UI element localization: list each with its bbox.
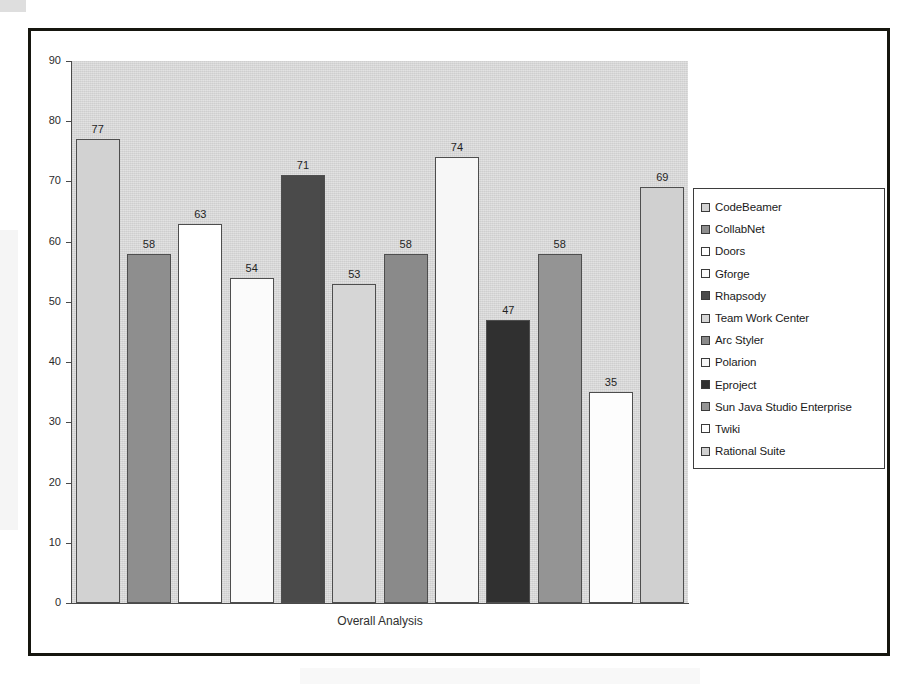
legend-item-label: Doors (715, 245, 745, 257)
legend-item[interactable]: Eproject (701, 374, 878, 396)
legend-item[interactable]: Rational Suite (701, 440, 878, 462)
legend-item-label: Rhapsody (715, 290, 766, 302)
legend-swatch-icon (701, 424, 710, 433)
legend-item[interactable]: CodeBeamer (701, 196, 878, 218)
legend-swatch-icon (701, 225, 710, 234)
legend-item-label: Team Work Center (715, 312, 809, 324)
bar[interactable] (281, 175, 325, 603)
bar[interactable] (178, 224, 222, 603)
bar-value-label: 69 (656, 171, 668, 183)
y-axis-tick-label: 70 (31, 174, 61, 186)
bar-slot: 35 (585, 61, 636, 603)
bar-value-label: 58 (554, 238, 566, 250)
bar[interactable] (435, 157, 479, 603)
legend-item[interactable]: Team Work Center (701, 307, 878, 329)
legend-item-label: Arc Styler (715, 334, 764, 346)
legend-swatch-icon (701, 203, 710, 212)
scan-artifact-bottom-caption (300, 668, 700, 684)
legend-item-label: Rational Suite (715, 445, 785, 457)
y-axis-tick-label: 20 (31, 476, 61, 488)
bar[interactable] (332, 284, 376, 603)
legend-swatch-icon (701, 336, 710, 345)
legend-item-label: Polarion (715, 356, 756, 368)
y-axis-tick-mark (66, 181, 71, 182)
bar-slot: 63 (175, 61, 226, 603)
bar[interactable] (127, 254, 171, 603)
bar[interactable] (384, 254, 428, 603)
y-axis-tick-mark (66, 422, 71, 423)
legend-item-label: Eproject (715, 379, 756, 391)
scan-artifact-top-left (0, 0, 26, 12)
y-axis-tick-mark (66, 362, 71, 363)
legend-item-label: Sun Java Studio Enterprise (715, 401, 852, 413)
x-axis-title: Overall Analysis (71, 614, 689, 628)
legend-item[interactable]: Twiki (701, 418, 878, 440)
bar-value-label: 58 (400, 238, 412, 250)
legend-item-label: CollabNet (715, 223, 765, 235)
y-axis-tick-mark (66, 242, 71, 243)
legend-swatch-icon (701, 247, 710, 256)
legend-swatch-icon (701, 314, 710, 323)
bar-chart: 9080706050403020100 77586354715358744758… (31, 31, 887, 653)
chart-legend: CodeBeamerCollabNetDoorsGforgeRhapsodyTe… (693, 188, 885, 469)
bar-value-label: 71 (297, 159, 309, 171)
bar[interactable] (640, 187, 684, 603)
bar-slot: 53 (329, 61, 380, 603)
bar-value-label: 54 (246, 262, 258, 274)
y-axis-tick-label: 10 (31, 536, 61, 548)
y-axis-tick-mark (66, 543, 71, 544)
y-axis-tick-mark (66, 603, 71, 604)
legend-item[interactable]: Arc Styler (701, 329, 878, 351)
y-axis-tick-label: 30 (31, 415, 61, 427)
bar-slot: 47 (483, 61, 534, 603)
bar-value-label: 63 (194, 208, 206, 220)
bar-slot: 54 (226, 61, 277, 603)
x-axis-line (71, 603, 689, 604)
y-axis-tick-label: 0 (31, 596, 61, 608)
bar-value-label: 77 (92, 123, 104, 135)
legend-item[interactable]: Doors (701, 240, 878, 262)
scan-artifact-left-edge (0, 230, 18, 530)
bar-value-label: 58 (143, 238, 155, 250)
bar-slot: 71 (277, 61, 328, 603)
legend-swatch-icon (701, 358, 710, 367)
bar-value-label: 74 (451, 141, 463, 153)
legend-swatch-icon (701, 447, 710, 456)
bar[interactable] (230, 278, 274, 603)
bar[interactable] (486, 320, 530, 603)
bars-layer: 775863547153587447583569 (72, 61, 688, 603)
figure-frame: 9080706050403020100 77586354715358744758… (28, 28, 890, 656)
legend-swatch-icon (701, 402, 710, 411)
bar-slot: 58 (380, 61, 431, 603)
y-axis-tick-mark (66, 61, 71, 62)
y-axis-tick-label: 40 (31, 355, 61, 367)
y-axis-tick-mark (66, 121, 71, 122)
y-axis-tick-mark (66, 483, 71, 484)
legend-item-label: Twiki (715, 423, 740, 435)
legend-item[interactable]: Gforge (701, 263, 878, 285)
y-axis-tick-label: 80 (31, 114, 61, 126)
legend-swatch-icon (701, 291, 710, 300)
legend-item[interactable]: CollabNet (701, 218, 878, 240)
bar-slot: 69 (637, 61, 688, 603)
legend-item[interactable]: Polarion (701, 351, 878, 373)
bar-slot: 74 (431, 61, 482, 603)
y-axis-tick-label: 50 (31, 295, 61, 307)
legend-swatch-icon (701, 380, 710, 389)
y-axis-tick-label: 60 (31, 235, 61, 247)
y-axis-tick-mark (66, 302, 71, 303)
bar[interactable] (76, 139, 120, 603)
bar[interactable] (589, 392, 633, 603)
bar-value-label: 47 (502, 304, 514, 316)
legend-item-label: CodeBeamer (715, 201, 782, 213)
legend-item[interactable]: Rhapsody (701, 285, 878, 307)
y-axis-tick-label: 90 (31, 54, 61, 66)
bar-value-label: 53 (348, 268, 360, 280)
bar-slot: 77 (72, 61, 123, 603)
bar[interactable] (538, 254, 582, 603)
legend-item-label: Gforge (715, 268, 750, 280)
bar-slot: 58 (123, 61, 174, 603)
legend-swatch-icon (701, 269, 710, 278)
legend-item[interactable]: Sun Java Studio Enterprise (701, 396, 878, 418)
bar-slot: 58 (534, 61, 585, 603)
